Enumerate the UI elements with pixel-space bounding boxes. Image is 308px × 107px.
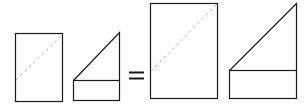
large-rectangle — [151, 4, 218, 99]
small-rectangle — [16, 34, 63, 102]
small-triangle-on-rectangle — [74, 33, 120, 101]
shape-equation-diagram — [0, 0, 308, 107]
equals-sign — [129, 73, 144, 79]
large-triangle-on-rectangle — [230, 4, 297, 99]
